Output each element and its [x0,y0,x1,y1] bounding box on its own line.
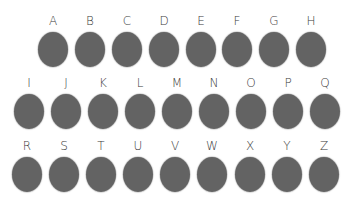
letter-dot-z: Z [309,139,339,199]
letter-dot-k: K [88,76,118,136]
circle-icon [310,94,340,129]
letter-dot-q: Q [310,76,340,136]
letter-label: M [162,76,192,90]
letter-label: F [222,14,252,28]
letter-dot-r: R [12,139,42,199]
letter-dot-a: A [38,14,68,74]
letter-label: E [186,14,216,28]
letter-dot-l: L [125,76,155,136]
letter-dot-o: O [236,76,266,136]
circle-icon [112,32,142,67]
circle-icon [186,32,216,67]
letter-dot-i: I [14,76,44,136]
circle-icon [162,94,192,129]
letter-dot-j: J [51,76,81,136]
letter-dot-d: D [149,14,179,74]
letter-dot-m: M [162,76,192,136]
letter-label: V [160,139,190,153]
letter-label: X [235,139,265,153]
letter-dot-g: G [259,14,289,74]
letter-label: Q [310,76,340,90]
letter-label: C [112,14,142,28]
letter-label: H [296,14,326,28]
circle-icon [236,94,266,129]
circle-icon [160,157,190,192]
letter-dot-s: S [49,139,79,199]
letter-dot-p: P [273,76,303,136]
circle-icon [38,32,68,67]
letter-dot-b: B [75,14,105,74]
letter-label: I [14,76,44,90]
circle-icon [123,157,153,192]
letter-label: Z [309,139,339,153]
letter-dot-v: V [160,139,190,199]
letter-dot-x: X [235,139,265,199]
letter-dot-t: T [86,139,116,199]
circle-icon [51,94,81,129]
letter-label: D [149,14,179,28]
letter-label: O [236,76,266,90]
letter-label: N [199,76,229,90]
letter-dot-y: Y [272,139,302,199]
letter-label: P [273,76,303,90]
circle-icon [49,157,79,192]
circle-icon [235,157,265,192]
letter-label: G [259,14,289,28]
circle-icon [309,157,339,192]
circle-icon [259,32,289,67]
circle-icon [296,32,326,67]
letter-label: Y [272,139,302,153]
letter-dot-e: E [186,14,216,74]
circle-icon [88,94,118,129]
letter-label: S [49,139,79,153]
letter-dot-w: W [197,139,227,199]
letter-dot-n: N [199,76,229,136]
letter-label: L [125,76,155,90]
circle-icon [14,94,44,129]
letter-dot-u: U [123,139,153,199]
letter-label: T [86,139,116,153]
circle-icon [149,32,179,67]
letter-label: B [75,14,105,28]
circle-icon [197,157,227,192]
circle-icon [222,32,252,67]
letter-label: K [88,76,118,90]
letter-label: U [123,139,153,153]
letter-label: W [197,139,227,153]
circle-icon [273,94,303,129]
circle-icon [75,32,105,67]
circle-icon [272,157,302,192]
circle-icon [199,94,229,129]
letter-dot-h: H [296,14,326,74]
letter-dot-f: F [222,14,252,74]
letter-dot-c: C [112,14,142,74]
circle-icon [12,157,42,192]
circle-icon [125,94,155,129]
letter-label: J [51,76,81,90]
letter-label: A [38,14,68,28]
letter-label: R [12,139,42,153]
circle-icon [86,157,116,192]
